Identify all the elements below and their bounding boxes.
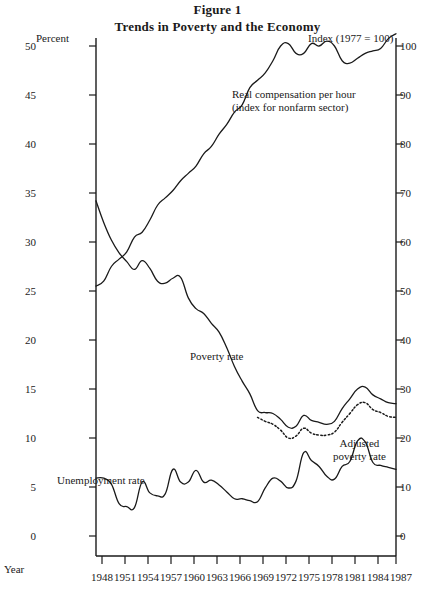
series-group xyxy=(96,34,396,510)
series-line-compensation xyxy=(96,34,396,286)
right-axis-ticks xyxy=(396,46,403,536)
figure-container: Figure 1 Trends in Poverty and the Econo… xyxy=(0,0,435,602)
left-axis-ticks xyxy=(89,46,96,536)
series-line-adjusted-poverty xyxy=(258,402,396,438)
series-line-poverty xyxy=(96,201,396,428)
series-line-unemployment xyxy=(96,438,396,510)
plot-area xyxy=(0,0,435,602)
axes-group xyxy=(89,38,403,564)
x-axis-ticks xyxy=(102,556,396,564)
